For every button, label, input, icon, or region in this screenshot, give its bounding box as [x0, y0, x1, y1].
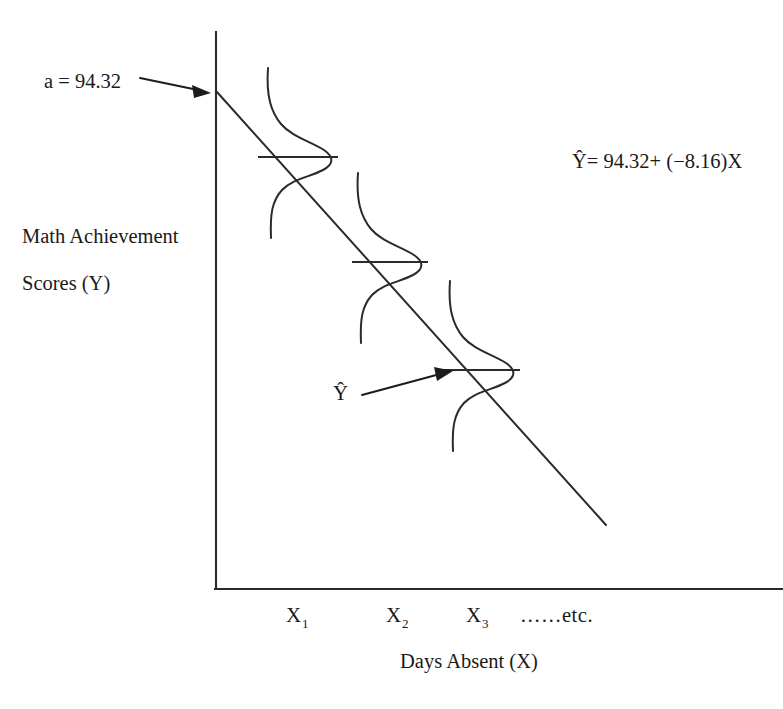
x-tick-1-subscript: 1 [302, 616, 309, 631]
normal-curve-3 [450, 281, 514, 451]
regression-plot-canvas: a = 94.32 Ŷ= 94.32+ (−8.16)X Ŷ Math Achi… [0, 0, 783, 709]
x-tick-2-base: X [386, 603, 401, 627]
intercept-arrow-head [192, 85, 211, 98]
normal-curve-1 [268, 68, 332, 238]
regression-equation-label: Ŷ= 94.32+ (−8.16)X [572, 150, 742, 173]
regression-diagram-figure: a = 94.32 Ŷ= 94.32+ (−8.16)X Ŷ Math Achi… [0, 0, 783, 709]
yhat-arrow [362, 367, 453, 395]
y-axis-label-line1: Math Achievement [22, 225, 179, 247]
x-axis-title: Days Absent (X) [400, 650, 538, 673]
y-axis-label-line2: Scores (Y) [22, 272, 110, 295]
intercept-arrow-shaft [140, 78, 198, 90]
x-tick-3-base: X [466, 603, 481, 627]
axis-group [215, 32, 783, 589]
x-axis-ellipsis-label: ……etc. [520, 604, 593, 626]
yhat-arrow-shaft [362, 374, 440, 395]
x-tick-label-3: X 3 [466, 603, 489, 631]
conditional-distribution-2 [352, 173, 428, 343]
intercept-label: a = 94.32 [44, 70, 121, 92]
intercept-arrow [140, 78, 211, 98]
x-tick-label-1: X 1 [286, 603, 309, 631]
x-tick-2-subscript: 2 [402, 616, 409, 631]
x-tick-label-2: X 2 [386, 603, 409, 631]
x-tick-3-subscript: 3 [482, 616, 489, 631]
conditional-distribution-3 [444, 281, 520, 451]
x-tick-1-base: X [286, 603, 301, 627]
yhat-label: Ŷ [333, 381, 348, 405]
